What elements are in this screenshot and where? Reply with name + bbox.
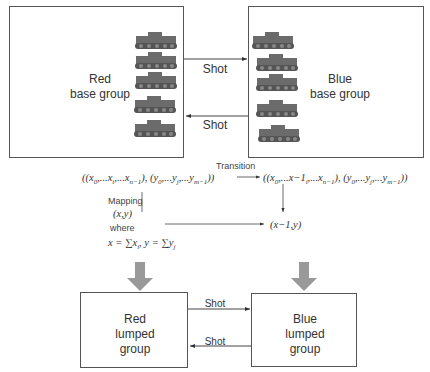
connector-lines [0,0,430,372]
